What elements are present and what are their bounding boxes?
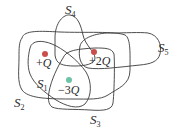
charge-label-q1: +Q (36, 56, 52, 70)
surface-label-s1: S1 (37, 76, 48, 93)
surface-label-s2: S2 (14, 95, 25, 112)
charge-label-q3: −3Q (58, 83, 80, 97)
surface-label-s5: S5 (158, 40, 169, 57)
surface-label-s3: S3 (90, 112, 101, 129)
gauss-surfaces-diagram: +Q +2Q −3Q S4 S5 S1 S2 S3 (0, 0, 175, 133)
charge-label-q2: +2Q (89, 54, 111, 68)
surface-label-s4: S4 (65, 2, 76, 19)
